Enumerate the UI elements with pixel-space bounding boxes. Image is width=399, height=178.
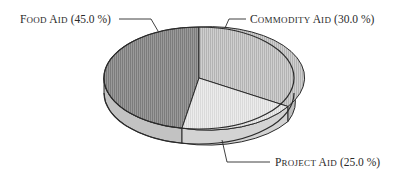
leader-commodity-aid — [225, 19, 246, 28]
label-food-aid: FOOD AID (45.0 %) — [20, 13, 111, 26]
label-project-aid: PROJECT AID (25.0 %) — [275, 156, 380, 169]
label-commodity-aid: COMMODITY AID (30.0 %) — [250, 13, 375, 26]
leader-food-aid — [119, 19, 158, 31]
pie-chart: FOOD AID (45.0 %) COMMODITY AID (30.0 %)… — [0, 0, 399, 178]
